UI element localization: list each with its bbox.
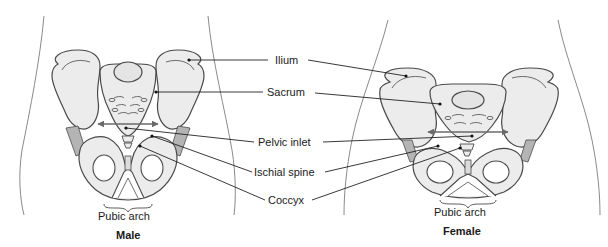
label-ilium: Ilium	[275, 54, 298, 66]
male-title: Male	[116, 229, 140, 241]
male-pelvis	[20, 16, 235, 215]
female-pubic-arch-label: Pubic arch	[434, 206, 486, 218]
label-sacrum: Sacrum	[267, 86, 305, 98]
male-pubic-arch-label: Pubic arch	[98, 210, 150, 222]
female-pelvis	[344, 20, 600, 215]
label-ischial-spine: Ischial spine	[254, 166, 315, 178]
label-coccyx: Coccyx	[268, 194, 304, 206]
pelvis-comparison-diagram: Ilium Sacrum Pelvic inlet Ischial spine …	[0, 0, 608, 247]
label-pelvic-inlet: Pelvic inlet	[258, 136, 311, 148]
diagram-artwork	[0, 0, 608, 247]
female-title: Female	[443, 225, 481, 237]
